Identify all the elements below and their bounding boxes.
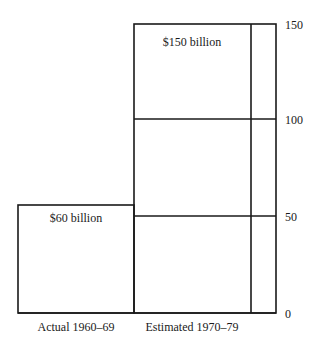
category-actual-1960-69: Actual 1960–69 [38,320,115,334]
x-axis-categories: Actual 1960–69 Estimated 1970–79 [38,320,239,334]
y-tick-0: 0 [285,307,291,321]
category-estimated-1970-79: Estimated 1970–79 [146,320,239,334]
bar-actual-value-label: $60 billion [50,211,102,225]
y-tick-150: 150 [285,18,303,32]
bar-estimated-1970-79: $150 billion [134,24,276,313]
y-tick-50: 50 [285,210,297,224]
bar-actual-1960-69: $60 billion [18,205,134,313]
bar-estimated-value-label: $150 billion [163,35,221,49]
y-axis: 150 100 50 0 [285,18,303,321]
y-tick-100: 100 [285,113,303,127]
bar-chart: $60 billion $150 billion 150 100 50 0 Ac… [0,0,320,354]
